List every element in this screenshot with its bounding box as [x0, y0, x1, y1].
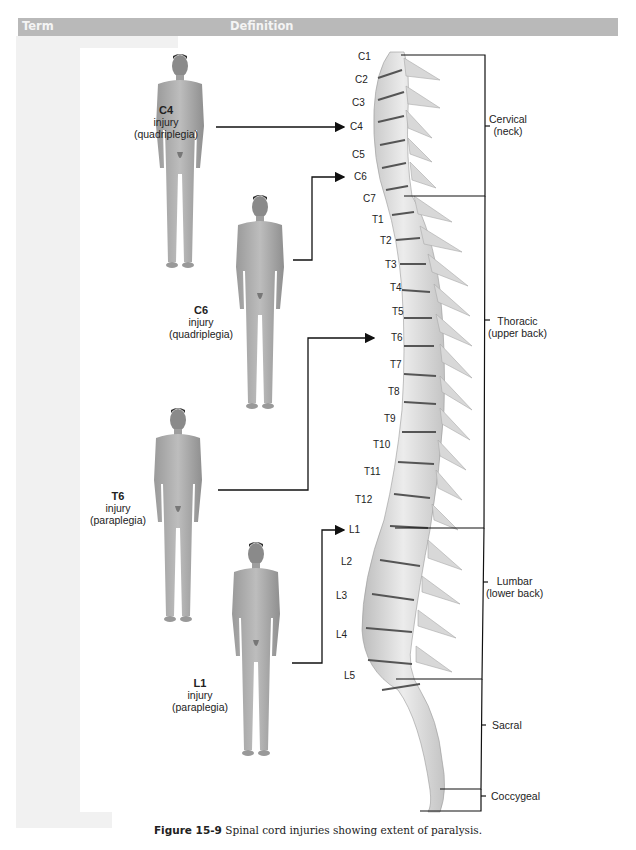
region-label-sacral: Sacral — [492, 719, 522, 731]
vertebra-label-l5: L5 — [344, 670, 355, 681]
vertebra-label-c5: C5 — [352, 149, 365, 160]
figure-number: Figure 15-9 — [154, 824, 222, 836]
spine-illustration — [362, 52, 472, 812]
vertebra-label-t11: T11 — [364, 466, 381, 477]
vertebra-label-t4: T4 — [390, 282, 402, 293]
vertebra-label-t6: T6 — [391, 332, 403, 343]
spinal-injury-diagram — [0, 0, 636, 850]
region-label-coccygeal: Coccygeal — [491, 790, 540, 802]
injury-label-c4: C4 injury (quadriplegia) — [126, 104, 206, 140]
vertebra-label-l1: L1 — [349, 524, 360, 535]
vertebra-label-t1: T1 — [372, 214, 384, 225]
vertebra-label-t12: T12 — [355, 494, 372, 505]
arrow-t6 — [218, 338, 374, 490]
vertebra-label-c1: C1 — [358, 51, 371, 62]
figure-t6-injury — [154, 408, 202, 622]
vertebra-label-t9: T9 — [384, 413, 396, 424]
injury-label-t6: T6 injury (paraplegia) — [80, 490, 156, 526]
injury-label-l1: L1 injury (paraplegia) — [160, 677, 240, 713]
vertebra-label-l2: L2 — [341, 556, 352, 567]
vertebra-label-c3: C3 — [352, 97, 365, 108]
figure-c6-injury — [236, 195, 284, 409]
vertebra-label-t3: T3 — [385, 259, 397, 270]
injury-label-c6: C6 injury (quadriplegia) — [161, 304, 241, 340]
figure-caption: Figure 15-9 Spinal cord injuries showing… — [0, 824, 636, 836]
vertebra-label-t5: T5 — [392, 306, 404, 317]
arrow-c6 — [293, 177, 344, 260]
figure-caption-text: Spinal cord injuries showing extent of p… — [222, 824, 482, 836]
region-label-cervical: Cervical(neck) — [489, 113, 527, 137]
vertebra-label-c7: C7 — [363, 193, 376, 204]
region-label-lumbar: Lumbar(lower back) — [486, 575, 543, 599]
vertebra-label-l3: L3 — [336, 590, 347, 601]
vertebra-label-c6: C6 — [354, 171, 367, 182]
vertebra-label-l4: L4 — [336, 629, 347, 640]
figure-c4-injury — [156, 54, 204, 268]
vertebra-label-t8: T8 — [388, 386, 400, 397]
vertebra-label-c2: C2 — [355, 74, 368, 85]
figure-l1-injury — [232, 542, 280, 756]
region-label-thoracic: Thoracic(upper back) — [488, 315, 547, 339]
vertebra-label-t10: T10 — [373, 439, 390, 450]
vertebra-label-t2: T2 — [380, 235, 392, 246]
vertebra-label-t7: T7 — [390, 359, 402, 370]
vertebra-label-c4: C4 — [350, 121, 363, 132]
